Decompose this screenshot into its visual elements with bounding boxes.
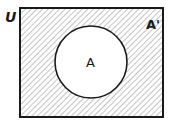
venn-diagram <box>0 0 170 129</box>
complement-label: A' <box>146 18 160 31</box>
set-a-label: A <box>86 56 95 69</box>
universe-label: U <box>5 10 16 24</box>
